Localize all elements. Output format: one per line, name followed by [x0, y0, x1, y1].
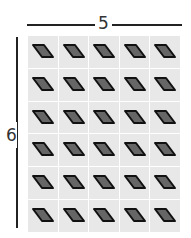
parallelogram-icon — [123, 140, 147, 158]
tile — [120, 69, 150, 101]
tile — [28, 36, 58, 68]
parallelogram-icon — [62, 42, 86, 60]
parallelogram-icon — [62, 140, 86, 158]
parallelogram-icon — [31, 140, 55, 158]
tile — [150, 167, 180, 199]
tile — [89, 36, 119, 68]
parallelogram-icon — [123, 206, 147, 224]
parallelogram-icon — [31, 42, 55, 60]
parallelogram-icon — [31, 108, 55, 126]
parallelogram-icon — [153, 108, 177, 126]
parallelogram-icon — [153, 42, 177, 60]
parallelogram-icon — [123, 173, 147, 191]
tile — [89, 200, 119, 232]
parallelogram-icon — [153, 140, 177, 158]
parallelogram-icon — [123, 75, 147, 93]
parallelogram-icon — [92, 75, 116, 93]
tile — [59, 102, 89, 134]
parallelogram-icon — [92, 206, 116, 224]
tile — [59, 36, 89, 68]
tile — [89, 134, 119, 166]
tile — [59, 167, 89, 199]
tile — [120, 102, 150, 134]
tile — [120, 134, 150, 166]
parallelogram-icon — [31, 75, 55, 93]
tile — [120, 36, 150, 68]
parallelogram-icon — [31, 206, 55, 224]
tile — [150, 69, 180, 101]
tile — [59, 134, 89, 166]
width-label: 5 — [95, 13, 112, 33]
tile — [89, 167, 119, 199]
parallelogram-icon — [31, 173, 55, 191]
tile — [150, 200, 180, 232]
tile — [59, 69, 89, 101]
tile — [89, 102, 119, 134]
parallelogram-icon — [123, 108, 147, 126]
tile — [59, 200, 89, 232]
parallelogram-icon — [62, 206, 86, 224]
tile — [89, 69, 119, 101]
parallelogram-icon — [62, 75, 86, 93]
height-label: 6 — [6, 122, 17, 148]
tile — [150, 102, 180, 134]
parallelogram-icon — [123, 42, 147, 60]
tile — [28, 134, 58, 166]
tile — [28, 102, 58, 134]
tile — [120, 200, 150, 232]
tile — [120, 167, 150, 199]
tile — [150, 134, 180, 166]
tile — [28, 69, 58, 101]
tile — [150, 36, 180, 68]
parallelogram-icon — [62, 173, 86, 191]
tile — [28, 200, 58, 232]
parallelogram-icon — [153, 206, 177, 224]
tile-grid — [28, 36, 180, 232]
parallelogram-icon — [153, 173, 177, 191]
parallelogram-icon — [92, 173, 116, 191]
tile — [28, 167, 58, 199]
parallelogram-icon — [92, 108, 116, 126]
parallelogram-icon — [92, 42, 116, 60]
parallelogram-icon — [62, 108, 86, 126]
parallelogram-icon — [153, 75, 177, 93]
parallelogram-icon — [92, 140, 116, 158]
